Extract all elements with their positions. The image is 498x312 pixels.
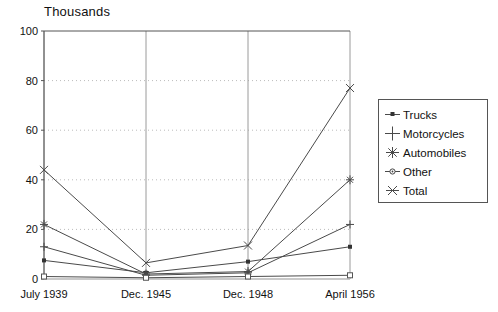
square-filled-marker-icon [384,106,401,123]
svg-text:April 1956: April 1956 [325,288,375,300]
series-automobiles [40,175,354,278]
legend-item-trucks: Trucks [379,105,487,124]
svg-text:Dec. 1948: Dec. 1948 [223,288,273,300]
legend-item-motorcycles: Motorcycles [379,124,487,143]
plus-marker-icon [384,125,401,142]
svg-text:20: 20 [26,223,38,235]
asterisk-marker-icon [384,144,401,161]
svg-text:60: 60 [26,124,38,136]
svg-text:0: 0 [32,273,38,285]
legend-label: Automobiles [403,147,466,159]
legend-label: Total [403,185,427,197]
legend-item-automobiles: Automobiles [379,143,487,162]
svg-text:Dec. 1945: Dec. 1945 [121,288,171,300]
legend-label: Other [403,166,432,178]
svg-text:40: 40 [26,174,38,186]
svg-text:100: 100 [20,25,38,37]
cross-marker-icon [384,182,401,199]
legend-label: Motorcycles [403,128,464,140]
legend-label: Trucks [403,109,437,121]
legend-item-other: Other [379,162,487,181]
series-trucks [42,245,352,275]
svg-text:80: 80 [26,75,38,87]
svg-text:July 1939: July 1939 [20,288,67,300]
chart-legend: Trucks Motorcycles Automobiles Other Tot… [378,99,488,203]
legend-item-total: Total [379,181,487,200]
series-total [40,84,354,267]
line-chart: Thousands 020406080100July 1939Dec. 1945… [0,0,498,312]
circle-dot-marker-icon [384,163,401,180]
